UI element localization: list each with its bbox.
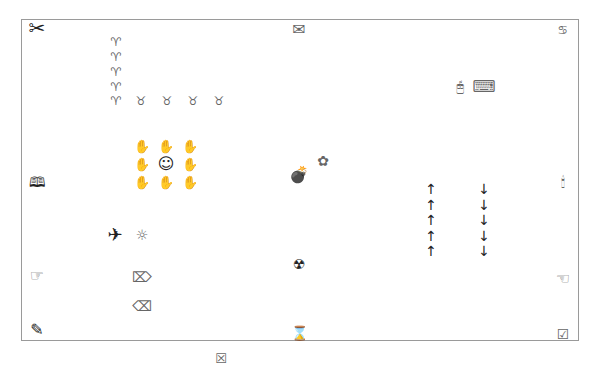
taurus-icon: ♉ — [162, 95, 173, 107]
hand-icon: ✋ — [134, 176, 150, 189]
cancer-sign-icon: ♋ — [558, 24, 569, 36]
up-arrow-icon: ↑ — [425, 229, 437, 243]
mouse-icon: 🖰 — [456, 80, 464, 94]
down-arrow-icon: ↓ — [478, 244, 490, 258]
up-arrow-icon: ↑ — [425, 213, 437, 227]
hand-icon: ✋ — [158, 176, 174, 189]
aries-icon: ♈ — [111, 95, 122, 107]
sun-dots-icon: ☼ — [136, 228, 149, 242]
hand-icon: ✋ — [134, 158, 150, 171]
checkbox-checked-icon: ☑ — [557, 327, 570, 341]
taurus-icon: ♉ — [188, 95, 199, 107]
bomb-icon: 💣 — [289, 167, 309, 183]
up-arrow-icon: ↑ — [425, 182, 437, 196]
erase-right-icon: ⌦ — [132, 270, 152, 284]
erase-left-icon: ⌫ — [132, 299, 152, 313]
aries-icon: ♈ — [111, 81, 122, 93]
candle-icon: 🕯 — [561, 175, 565, 189]
point-left-hand-icon: ☜ — [556, 271, 570, 287]
hand-icon: ✋ — [158, 140, 174, 153]
down-arrow-icon: ↓ — [478, 213, 490, 227]
aries-icon: ♈ — [111, 36, 122, 48]
book-icon: 🕮 — [29, 175, 46, 189]
flower-icon: ✿ — [317, 154, 329, 168]
aries-icon: ♈ — [111, 66, 122, 78]
smiley-icon: ☺ — [158, 156, 175, 172]
keyboard-icon: ⌨ — [472, 79, 495, 95]
taurus-icon: ♉ — [136, 95, 147, 107]
down-arrow-icon: ↓ — [478, 198, 490, 212]
airplane-icon: ✈ — [107, 226, 122, 244]
taurus-icon: ♉ — [214, 95, 225, 107]
checkbox-x-icon: ☒ — [215, 352, 227, 365]
scissors-icon: ✂ — [29, 18, 46, 38]
up-arrow-icon: ↑ — [425, 198, 437, 212]
radiation-icon: ☢ — [293, 257, 306, 271]
up-arrow-icon: ↑ — [425, 244, 437, 258]
point-right-hand-icon: ☞ — [30, 268, 44, 284]
hand-icon: ✋ — [182, 140, 198, 153]
down-arrow-icon: ↓ — [478, 182, 490, 196]
hand-icon: ✋ — [182, 158, 198, 171]
down-arrow-icon: ↓ — [478, 229, 490, 243]
pencil-icon: ✎ — [30, 322, 43, 338]
hand-icon: ✋ — [182, 176, 198, 189]
aries-icon: ♈ — [111, 51, 122, 63]
envelope-icon: ✉ — [292, 22, 305, 38]
hourglass-icon: ⌛ — [291, 326, 308, 340]
hand-icon: ✋ — [134, 140, 150, 153]
